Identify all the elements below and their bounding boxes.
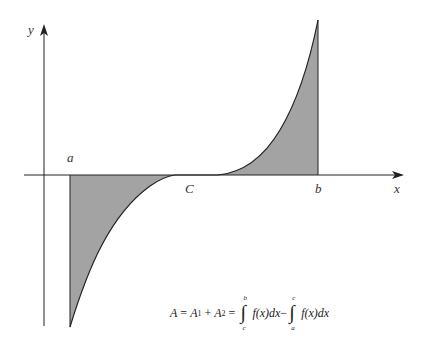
point-c-label: C <box>185 182 194 195</box>
formula-minus: − <box>280 306 287 321</box>
formula-eq1: = <box>177 306 190 321</box>
integral-sign-icon: ∫ <box>289 302 294 322</box>
formula-lhs: A <box>170 306 177 321</box>
area-a2-region <box>218 20 318 175</box>
area-a1-region <box>70 175 175 327</box>
integral-2-lower: a <box>291 324 295 332</box>
x-axis-label: x <box>394 182 400 195</box>
integral-sign-icon: ∫ <box>240 302 245 322</box>
area-formula: A = A1 + A2 = b ∫ c f(x)dx − c ∫ a f(x)d… <box>170 298 329 328</box>
formula-eq2: = <box>226 306 239 321</box>
integral-2-body: f(x)dx <box>301 306 329 321</box>
integral-1-lower: c <box>242 324 245 332</box>
integral-1: b ∫ c <box>239 298 251 328</box>
y-axis-label: y <box>28 23 34 36</box>
formula-plus: + <box>201 306 214 321</box>
point-b-label: b <box>315 182 322 195</box>
integral-2: c ∫ a <box>288 298 300 328</box>
integral-1-body: f(x)dx <box>252 306 280 321</box>
formula-a2: A <box>214 306 221 321</box>
formula-a1: A <box>190 306 197 321</box>
point-a-label: a <box>67 151 74 164</box>
